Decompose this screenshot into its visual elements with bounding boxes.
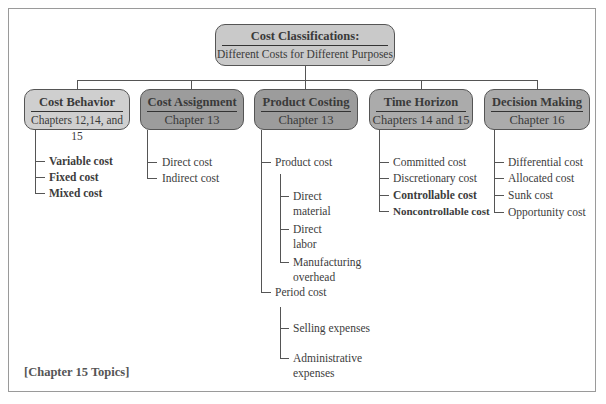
tree-tick: [494, 195, 504, 196]
category-subtitle: Chapters 14 and 15: [370, 112, 472, 128]
tree-tick: [147, 178, 157, 179]
tree-tick: [280, 196, 289, 197]
list-item: Period cost: [275, 286, 326, 299]
tree-tick: [494, 162, 504, 163]
tree-tick: [494, 212, 504, 213]
subtree-trunk: [280, 307, 281, 359]
root-subtitle: Different Costs for Different Purposes: [216, 46, 394, 62]
tree-tick: [35, 177, 45, 178]
tree-tick: [494, 178, 504, 179]
tree-tick: [147, 162, 157, 163]
tree-tick: [379, 195, 389, 196]
tree-tick: [280, 328, 289, 329]
subtree-trunk: [280, 174, 281, 263]
category-subtitle: Chapters 12,14, and 15: [25, 112, 129, 144]
tree-tick: [280, 262, 289, 263]
tree-trunk: [379, 130, 380, 212]
list-item: Indirect cost: [162, 172, 219, 185]
category-time-horizon: Time Horizon Chapters 14 and 15: [369, 89, 473, 130]
list-item: Opportunity cost: [508, 206, 586, 219]
category-subtitle: Chapter 16: [485, 112, 589, 128]
tree-tick: [379, 211, 389, 212]
tree-tick: [261, 292, 271, 293]
tree-tick: [261, 162, 271, 163]
category-title: Decision Making: [491, 95, 583, 112]
sub-item-line2: material: [293, 205, 331, 218]
tree-tick: [35, 193, 45, 194]
list-item: Sunk cost: [508, 189, 553, 202]
root-node: Cost Classifications: Different Costs fo…: [215, 24, 395, 66]
category-subtitle: Chapter 13: [255, 112, 357, 128]
list-item: Variable cost: [49, 155, 113, 168]
list-item: Allocated cost: [508, 172, 574, 185]
tree-trunk: [35, 130, 36, 194]
tree-tick: [379, 178, 389, 179]
sub-item-line1: Direct: [293, 190, 331, 203]
category-bus: [77, 80, 538, 81]
tree-tick: [280, 358, 289, 359]
sub-item-line1: Direct: [293, 223, 322, 236]
category-product-costing: Product Costing Chapter 13: [254, 89, 358, 130]
root-connector: [305, 66, 306, 80]
root-title: Cost Classifications:: [222, 29, 388, 46]
sub-item-line2: labor: [293, 238, 322, 251]
tree-tick: [379, 162, 389, 163]
sub-item-line1: Selling expenses: [293, 322, 370, 335]
sub-list-item: Selling expenses: [293, 322, 370, 335]
category-subtitle: Chapter 13: [141, 112, 243, 128]
tree-tick: [35, 161, 45, 162]
tree-trunk: [494, 130, 495, 213]
sub-list-item: Direct material: [293, 190, 331, 218]
list-item: Committed cost: [393, 156, 466, 169]
tree-tick: [280, 229, 289, 230]
list-item: Controllable cost: [393, 189, 477, 202]
sub-list-item: Administrative expenses: [293, 352, 362, 380]
category-cost-behavior: Cost Behavior Chapters 12,14, and 15: [24, 89, 130, 130]
list-item: Noncontrollable cost: [393, 205, 490, 218]
sub-item-line2: overhead: [293, 271, 361, 284]
list-item: Mixed cost: [49, 187, 102, 200]
category-cost-assignment: Cost Assignment Chapter 13: [140, 89, 244, 130]
list-item: Fixed cost: [49, 171, 99, 184]
sub-list-item: Direct labor: [293, 223, 322, 251]
sub-list-item: Manufacturing overhead: [293, 256, 361, 284]
category-title: Cost Behavior: [31, 95, 123, 112]
category-title: Time Horizon: [376, 95, 466, 112]
category-decision-making: Decision Making Chapter 16: [484, 89, 590, 130]
sub-item-line1: Administrative: [293, 352, 362, 365]
list-item: Discretionary cost: [393, 172, 477, 185]
list-item: Direct cost: [162, 156, 212, 169]
list-item: Differential cost: [508, 156, 583, 169]
sub-item-line1: Manufacturing: [293, 256, 361, 269]
sub-item-line2: expenses: [293, 367, 362, 380]
legend-chapter-15: [Chapter 15 Topics]: [24, 365, 129, 380]
category-title: Cost Assignment: [147, 95, 237, 112]
tree-trunk: [261, 130, 262, 293]
tree-trunk: [147, 130, 148, 179]
list-item: Product cost: [275, 156, 332, 169]
category-title: Product Costing: [261, 95, 351, 112]
